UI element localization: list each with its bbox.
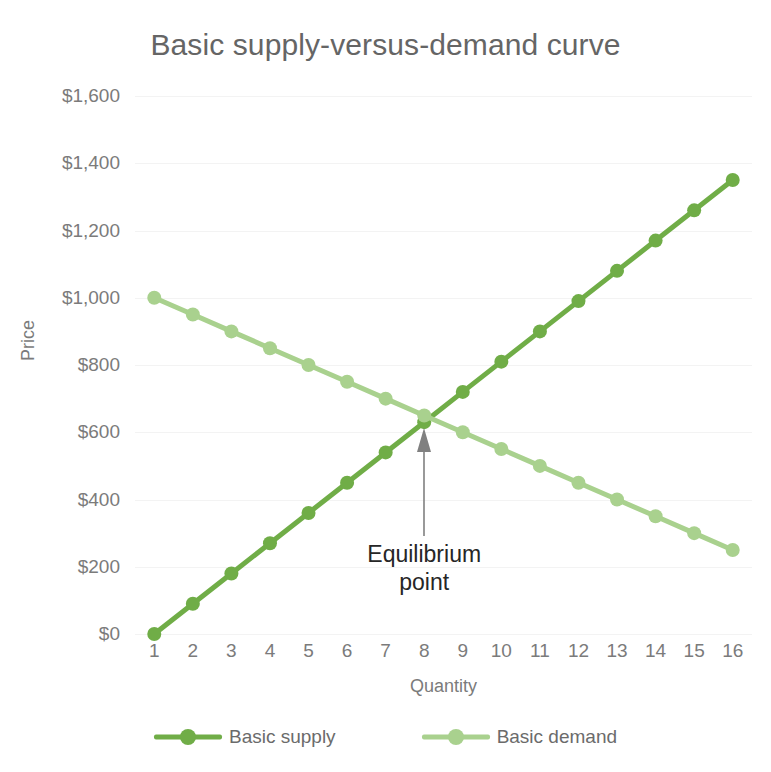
x-axis-tick-label: 10 [491, 640, 512, 662]
legend-swatch-icon [422, 728, 490, 746]
data-point-marker [571, 476, 585, 490]
legend-item-supply[interactable]: Basic supply [154, 726, 336, 748]
legend-marker-icon [448, 729, 464, 745]
y-axis-tick-labels: $0$200$400$600$800$1,000$1,200$1,400$1,6… [20, 96, 128, 634]
y-axis-tick-label: $1,200 [62, 220, 120, 242]
data-point-marker [263, 341, 277, 355]
y-axis-tick-label: $200 [78, 556, 120, 578]
data-point-marker [687, 526, 701, 540]
data-point-marker [340, 476, 354, 490]
data-point-marker [610, 264, 624, 278]
data-point-marker [263, 536, 277, 550]
data-point-marker [224, 566, 238, 580]
x-axis-tick-label: 14 [645, 640, 666, 662]
x-axis-tick-label: 2 [188, 640, 199, 662]
y-axis-tick-label: $1,400 [62, 152, 120, 174]
data-point-marker [147, 291, 161, 305]
data-point-marker [571, 294, 585, 308]
x-axis-tick-label: 1 [149, 640, 160, 662]
data-point-marker [610, 493, 624, 507]
x-axis-tick-label: 11 [530, 640, 550, 662]
x-axis-tick-label: 7 [380, 640, 391, 662]
data-point-marker [456, 425, 470, 439]
data-point-marker [494, 442, 508, 456]
equilibrium-annotation-line1: Equilibrium [314, 540, 534, 568]
data-point-marker [379, 392, 393, 406]
data-point-marker [726, 543, 740, 557]
equilibrium-arrow-icon [414, 426, 434, 536]
data-point-marker [379, 445, 393, 459]
data-point-marker [302, 506, 316, 520]
x-axis-title: Quantity [135, 676, 752, 697]
series-basic-demand [147, 291, 739, 557]
data-point-marker [533, 459, 547, 473]
data-point-marker [147, 627, 161, 641]
x-axis-tick-label: 16 [722, 640, 743, 662]
x-axis-tick-label: 4 [265, 640, 276, 662]
gridline [135, 634, 752, 635]
x-axis-tick-label: 3 [226, 640, 237, 662]
data-point-marker [340, 375, 354, 389]
y-axis-tick-label: $600 [78, 421, 120, 443]
data-point-marker [649, 234, 663, 248]
y-axis-tick-label: $800 [78, 354, 120, 376]
x-axis-tick-label: 6 [342, 640, 353, 662]
y-axis-tick-label: $0 [99, 623, 120, 645]
y-axis-tick-label: $400 [78, 489, 120, 511]
data-point-marker [186, 308, 200, 322]
x-axis-tick-label: 5 [303, 640, 314, 662]
equilibrium-annotation-line2: point [314, 568, 534, 596]
x-axis-tick-label: 15 [684, 640, 705, 662]
x-axis-tick-label: 13 [606, 640, 627, 662]
series-line [154, 298, 732, 550]
equilibrium-annotation: Equilibrium point [314, 540, 534, 596]
data-point-marker [533, 324, 547, 338]
legend-label: Basic demand [497, 726, 617, 748]
x-axis-tick-label: 8 [419, 640, 430, 662]
chart-title: Basic supply-versus-demand curve [0, 28, 771, 62]
y-axis-tick-label: $1,000 [62, 287, 120, 309]
data-point-marker [417, 408, 431, 422]
data-point-marker [186, 597, 200, 611]
data-point-marker [687, 203, 701, 217]
legend-item-demand[interactable]: Basic demand [422, 726, 617, 748]
data-point-marker [302, 358, 316, 372]
legend-marker-icon [180, 729, 196, 745]
y-axis-tick-label: $1,600 [62, 85, 120, 107]
legend-swatch-icon [154, 728, 222, 746]
data-point-marker [494, 355, 508, 369]
x-axis-tick-label: 12 [568, 640, 589, 662]
chart-container: Basic supply-versus-demand curve Price $… [0, 0, 771, 772]
data-point-marker [456, 385, 470, 399]
chart-legend: Basic supplyBasic demand [0, 726, 771, 748]
data-point-marker [224, 324, 238, 338]
x-axis-tick-labels: 12345678910111213141516 [135, 640, 752, 670]
data-point-marker [649, 509, 663, 523]
x-axis-tick-label: 9 [457, 640, 468, 662]
data-point-marker [726, 173, 740, 187]
legend-label: Basic supply [229, 726, 336, 748]
